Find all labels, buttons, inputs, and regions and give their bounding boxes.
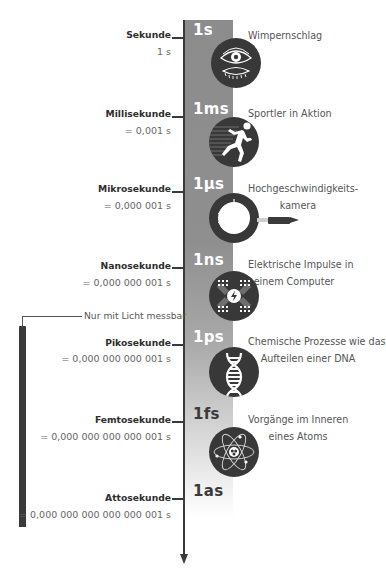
light-range-bar — [19, 326, 26, 527]
value-attosekunde: = 0,000 000 000 000 000 001 s — [19, 509, 171, 520]
circuit-chip-icon — [209, 271, 259, 321]
name-attosekunde: Attosekunde — [105, 492, 171, 503]
name-femtosekunde: Femtosekunde — [95, 414, 171, 425]
desc-sekunde: Wimpernschlag — [248, 27, 322, 44]
light-bracket-line — [22, 316, 82, 317]
value-sekunde: 1 s — [157, 46, 171, 57]
tick-femtosekunde — [172, 421, 184, 423]
desc-line-1: Hochgeschwindigkeits- — [248, 180, 348, 197]
value-nanosekunde: = 0,000 000 001 s — [83, 277, 171, 288]
value-millisekunde: = 0,001 s — [125, 125, 171, 136]
sprinter-icon — [209, 117, 259, 167]
unit-label-sekunde: 1s — [193, 21, 213, 39]
name-pikosekunde: Pikosekunde — [105, 337, 171, 348]
desc-line-1: Elektrische Impulse in — [248, 256, 340, 273]
tick-pikosekunde — [172, 344, 184, 346]
desc-line-2: eines Atoms — [248, 428, 348, 445]
desc-femtosekunde: Vorgänge im Inneren eines Atoms — [248, 411, 348, 445]
unit-label-nanosekunde: 1ns — [193, 251, 224, 269]
unit-label-mikrosekunde: 1µs — [193, 175, 224, 193]
tick-mikrosekunde — [172, 191, 184, 193]
tick-sekunde — [172, 37, 184, 39]
desc-line-1: Chemische Prozesse wie das — [248, 333, 368, 350]
light-range-label: Nur mit Licht messbar — [84, 310, 186, 321]
desc-pikosekunde: Chemische Prozesse wie das Aufteilen ein… — [248, 333, 368, 367]
value-mikrosekunde: = 0,000 001 s — [104, 200, 171, 211]
desc-millisekunde: Sportler in Aktion — [248, 105, 332, 122]
desc-line-2: Aufteilen einer DNA — [248, 350, 368, 367]
desc-line-2: einem Computer — [248, 273, 340, 290]
name-mikrosekunde: Mikrosekunde — [98, 183, 171, 194]
atom-icon — [209, 427, 259, 477]
desc-nanosekunde: Elektrische Impulse in einem Computer — [248, 256, 340, 290]
desc-mikrosekunde: Hochgeschwindigkeits- kamera — [248, 180, 348, 214]
value-pikosekunde: = 0,000 000 000 001 s — [61, 353, 171, 364]
time-axis — [183, 20, 185, 558]
desc-line-2: kamera — [248, 197, 348, 214]
tick-attosekunde — [172, 498, 184, 500]
unit-label-pikosekunde: 1ps — [193, 328, 224, 346]
name-nanosekunde: Nanosekunde — [101, 260, 171, 271]
dna-icon — [209, 347, 259, 397]
unit-label-millisekunde: 1ms — [193, 100, 229, 118]
bullet-icon — [257, 216, 299, 224]
tick-nanosekunde — [172, 267, 184, 269]
value-femtosekunde: = 0,000 000 000 000 001 s — [40, 431, 171, 442]
name-sekunde: Sekunde — [126, 29, 171, 40]
tick-millisekunde — [172, 116, 184, 118]
name-millisekunde: Millisekunde — [106, 108, 171, 119]
eye-blink-icon — [211, 38, 261, 88]
unit-label-femtosekunde: 1fs — [193, 405, 220, 423]
desc-line-1: Vorgänge im Inneren — [248, 411, 348, 428]
axis-arrow-icon — [180, 554, 188, 564]
bullet-apple-icon — [209, 193, 259, 243]
unit-label-attosekunde: 1as — [193, 482, 223, 500]
